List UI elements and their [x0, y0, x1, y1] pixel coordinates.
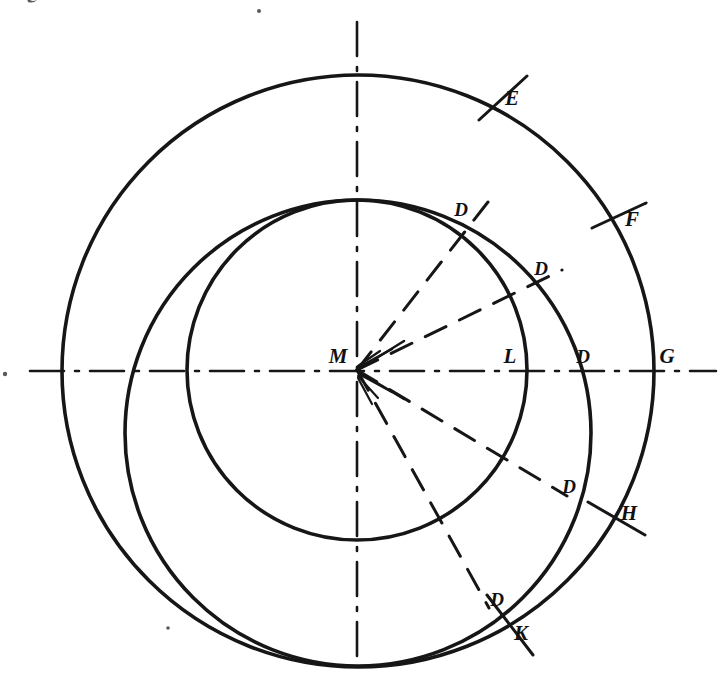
- label-D-lower: D: [489, 589, 504, 610]
- label-F: F: [624, 207, 639, 231]
- paper-background: [0, 0, 725, 685]
- label-D-right: D: [575, 346, 590, 367]
- label-E: E: [504, 86, 519, 110]
- speck-low-left: [166, 626, 170, 630]
- label-D-lower-right: D: [561, 476, 576, 497]
- label-K: K: [513, 621, 530, 645]
- label-D-upper-left: D: [453, 199, 468, 220]
- label-D-upper-right: D: [533, 258, 548, 279]
- label-L: L: [503, 344, 517, 368]
- speck-left-axis: [3, 372, 7, 376]
- geometric-construction-figure: M E F G H K L D D D D D: [0, 0, 725, 685]
- label-M: M: [328, 344, 349, 368]
- diagram-page: M E F G H K L D D D D D: [0, 0, 725, 685]
- label-H: H: [620, 501, 638, 525]
- speck-top-center: [257, 9, 261, 13]
- label-G: G: [659, 344, 674, 368]
